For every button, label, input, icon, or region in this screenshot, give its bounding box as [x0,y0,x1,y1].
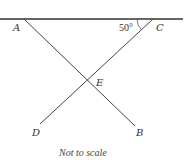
segment-cd [40,19,153,124]
angle-label-50: 50° [119,23,133,33]
label-c: C [156,23,164,33]
label-b: B [136,128,143,138]
segment-ab [24,19,135,126]
angle-arc-c [137,19,142,30]
label-a: A [13,23,20,33]
label-d: D [32,128,40,138]
label-e: E [96,78,103,88]
not-to-scale-note: Not to scale [59,148,107,158]
